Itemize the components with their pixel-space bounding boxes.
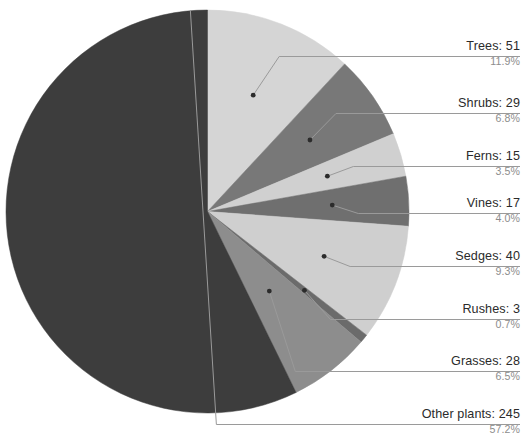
callout-percent: 4.0% [467, 211, 520, 225]
callout-label: Grasses: 28 [451, 354, 520, 369]
leader-dot-shrubs [308, 138, 313, 143]
leader-dot-vines [330, 203, 335, 208]
pie-chart-figure: Trees: 5111.9%Shrubs: 296.8%Ferns: 153.5… [0, 0, 531, 446]
callout-label: Vines: 17 [467, 196, 520, 211]
callout-sedges[interactable]: Sedges: 409.3% [455, 249, 520, 278]
callout-percent: 6.5% [451, 369, 520, 383]
callout-trees[interactable]: Trees: 5111.9% [466, 39, 520, 68]
callout-label: Sedges: 40 [455, 249, 520, 264]
callout-percent: 57.2% [422, 422, 520, 436]
leader-dot-ferns [325, 174, 330, 179]
callout-vines[interactable]: Vines: 174.0% [467, 196, 520, 225]
callout-label: Rushes: 3 [462, 302, 520, 317]
callout-percent: 9.3% [455, 264, 520, 278]
leader-dot-sedges [322, 254, 327, 259]
callout-ferns[interactable]: Ferns: 153.5% [466, 149, 520, 178]
callout-label: Ferns: 15 [466, 149, 520, 164]
pie-slice-group [6, 10, 409, 413]
callout-label: Shrubs: 29 [458, 96, 520, 111]
callout-label: Trees: 51 [466, 39, 520, 54]
callout-percent: 3.5% [466, 164, 520, 178]
callout-grasses[interactable]: Grasses: 286.5% [451, 354, 520, 383]
callout-label: Other plants: 245 [422, 407, 520, 422]
callout-percent: 0.7% [462, 317, 520, 331]
callout-percent: 11.9% [466, 54, 520, 68]
callout-percent: 6.8% [458, 111, 520, 125]
leader-dot-trees [251, 93, 256, 98]
leader-dot-rushes [302, 288, 307, 293]
callout-shrubs[interactable]: Shrubs: 296.8% [458, 96, 520, 125]
callout-rushes[interactable]: Rushes: 30.7% [462, 302, 520, 331]
callout-other-plants[interactable]: Other plants: 24557.2% [422, 407, 520, 436]
leader-dot-grasses [267, 289, 272, 294]
